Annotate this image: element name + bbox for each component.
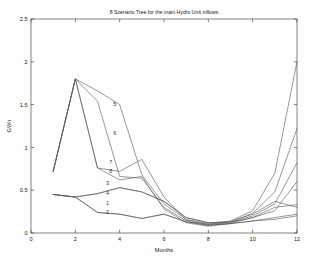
series-line-7 (53, 79, 297, 225)
figure-canvas: 02468101200.511.522.58 Scenario Tree for… (0, 0, 313, 265)
series-label-3: 3 (106, 180, 109, 186)
series-label-4: 4 (106, 190, 109, 196)
y-tick-label: 1 (24, 145, 27, 151)
y-tick-label: 0 (24, 230, 27, 236)
x-tick-label: 10 (250, 236, 256, 242)
x-tick-label: 6 (162, 236, 165, 242)
chart-title: 8 Scenario Tree for the main Hydro Unit … (110, 9, 219, 15)
y-axis-label: GWh (6, 120, 12, 133)
series-label-1: 1 (106, 200, 109, 206)
series-line-8 (53, 79, 297, 226)
series-line-3 (53, 188, 297, 223)
x-tick-label: 4 (118, 236, 121, 242)
x-axis-label: Months (155, 247, 174, 253)
line-chart: 02468101200.511.522.58 Scenario Tree for… (0, 0, 313, 265)
series-label-7: 7 (109, 159, 112, 165)
plot-area-border (31, 19, 297, 233)
x-tick-label: 12 (294, 236, 300, 242)
x-tick-label: 2 (74, 236, 77, 242)
series-line-6 (53, 79, 297, 225)
y-tick-label: 2 (24, 59, 27, 65)
y-tick-label: 0.5 (20, 187, 28, 193)
x-tick-label: 8 (207, 236, 210, 242)
x-tick-label: 0 (29, 236, 32, 242)
series-label-2: 2 (106, 209, 109, 215)
series-label-5: 5 (113, 101, 116, 107)
series-label-8: 8 (109, 168, 112, 174)
y-tick-label: 2.5 (20, 16, 28, 22)
series-line-5 (53, 62, 297, 224)
y-tick-label: 1.5 (20, 102, 28, 108)
series-line-4 (53, 188, 297, 223)
series-label-6: 6 (113, 130, 116, 136)
